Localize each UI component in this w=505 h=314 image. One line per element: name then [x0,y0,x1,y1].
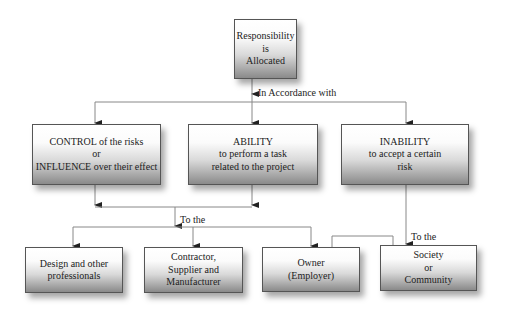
node-text: Society [414,249,444,262]
node-text: to perform a task [219,148,287,161]
root-line-3: Allocated [246,55,285,68]
root-node-responsibility-allocated: Responsibility is Allocated [234,19,297,79]
node-design-professionals: Design and other professionals [25,247,123,293]
node-text: Supplier and [168,264,219,277]
node-text: (Employer) [288,270,334,283]
root-line-1: Responsibility [237,30,295,43]
node-text: Design and other [40,258,108,271]
node-inability: INABILITY to accept a certain risk [341,124,469,185]
node-text: or [424,262,432,275]
label-to-the-left: To the [180,214,205,225]
node-text: Owner [297,257,324,270]
node-text: professionals [48,270,101,283]
label-to-the-right: To the [411,231,436,242]
node-text: INFLUENCE over their effect [36,161,158,174]
node-text: related to the project [212,161,294,174]
node-ability: ABILITY to perform a task related to the… [188,124,318,185]
node-control-influence: CONTROL of the risks or INFLUENCE over t… [32,124,161,185]
label-in-accordance-with: In Accordance with [258,87,336,98]
node-text: Manufacturer [166,276,220,289]
node-text: INABILITY [380,136,431,149]
node-society-community: Society or Community [380,245,477,291]
node-text: CONTROL of the risks [50,136,144,149]
node-owner-employer: Owner (Employer) [262,247,360,292]
node-text: risk [398,161,413,174]
node-text: ABILITY [233,136,273,149]
node-text: Community [405,274,453,287]
node-text: or [92,148,100,161]
node-text: Contractor, [171,251,216,264]
root-line-2: is [262,43,269,56]
node-text: to accept a certain [369,148,441,161]
node-contractor-supplier-manufacturer: Contractor, Supplier and Manufacturer [144,247,243,293]
